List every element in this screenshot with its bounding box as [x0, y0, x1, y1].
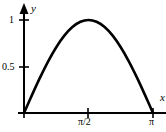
sine-curve-figure: y x 1 0.5 π/2 π	[0, 0, 166, 132]
x-tick-label-pi: π	[149, 117, 154, 127]
x-axis-label: x	[160, 92, 165, 103]
y-axis-label: y	[31, 3, 36, 14]
sine-curve-path	[24, 20, 153, 113]
x-tick-label-pi-over-2: π/2	[78, 117, 91, 127]
y-tick-label-0-5: 0.5	[2, 62, 15, 72]
plot-canvas	[0, 0, 166, 132]
y-tick-label-1: 1	[9, 15, 14, 25]
y-axis-arrowhead	[20, 3, 29, 14]
